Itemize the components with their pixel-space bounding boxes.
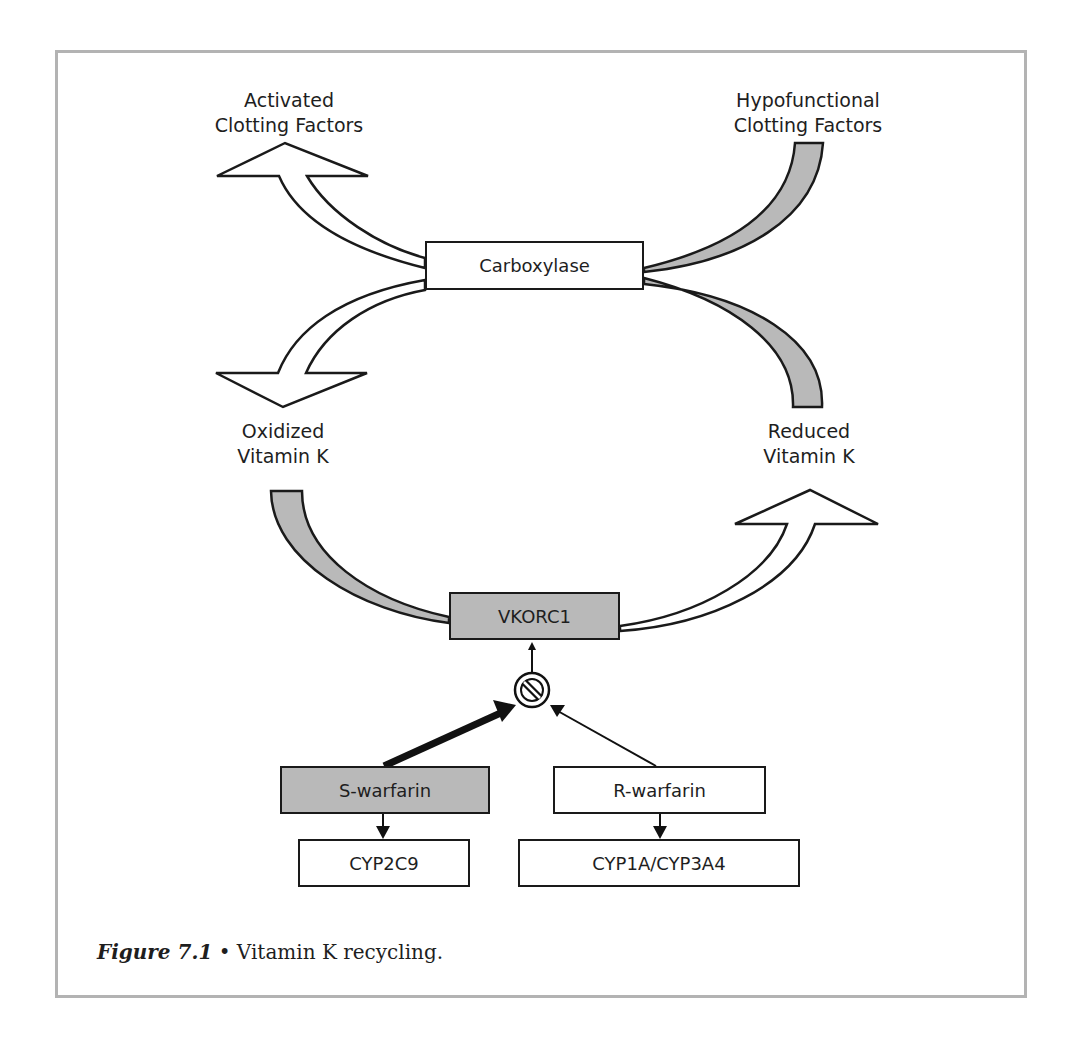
arrow-r-warfarin-to-inhibit bbox=[556, 710, 656, 766]
caption-bullet: • bbox=[219, 940, 231, 964]
cyp2c9-node: CYP2C9 bbox=[298, 839, 470, 887]
label-line: Reduced bbox=[763, 419, 854, 444]
label-line: Vitamin K bbox=[763, 444, 854, 469]
inhibit-icon bbox=[515, 673, 549, 707]
vkorc1-node: VKORC1 bbox=[449, 592, 620, 640]
oxidized-vitamin-k-label: Oxidized Vitamin K bbox=[237, 419, 328, 469]
caption-text: Vitamin K recycling. bbox=[237, 940, 443, 964]
hypofunctional-clotting-factors-label: Hypofunctional Clotting Factors bbox=[734, 88, 883, 138]
arrow-s-warfarin-to-inhibit bbox=[384, 711, 505, 766]
r-warfarin-node: R-warfarin bbox=[553, 766, 766, 814]
figure-caption: Figure 7.1 • Vitamin K recycling. bbox=[97, 940, 443, 964]
label-line: Oxidized bbox=[237, 419, 328, 444]
label-line: Clotting Factors bbox=[215, 113, 364, 138]
arrowhead-cyp1a bbox=[653, 826, 667, 839]
cyp1a-cyp3a4-node: CYP1A/CYP3A4 bbox=[518, 839, 800, 887]
label-line: Hypofunctional bbox=[734, 88, 883, 113]
arrow-to-activated-factors bbox=[217, 143, 425, 268]
band-from-reduced-vitk bbox=[644, 278, 822, 407]
label-line: Activated bbox=[215, 88, 364, 113]
reduced-vitamin-k-label: Reduced Vitamin K bbox=[763, 419, 854, 469]
arrowhead-r-warfarin bbox=[550, 705, 565, 717]
arrowhead-cyp2c9 bbox=[376, 826, 390, 839]
label-line: Vitamin K bbox=[237, 444, 328, 469]
label-line: Clotting Factors bbox=[734, 113, 883, 138]
band-to-hypofunctional-factors bbox=[644, 143, 823, 272]
arrow-to-reduced-vitk bbox=[620, 490, 878, 631]
s-warfarin-node: S-warfarin bbox=[280, 766, 490, 814]
vitamin-k-cycle-diagram bbox=[0, 0, 1080, 1056]
carboxylase-node: Carboxylase bbox=[425, 241, 644, 290]
arrow-to-oxidized-vitk bbox=[216, 280, 425, 407]
figure-number: Figure 7.1 bbox=[97, 940, 212, 964]
band-from-oxidized-vitk bbox=[271, 491, 449, 623]
activated-clotting-factors-label: Activated Clotting Factors bbox=[215, 88, 364, 138]
